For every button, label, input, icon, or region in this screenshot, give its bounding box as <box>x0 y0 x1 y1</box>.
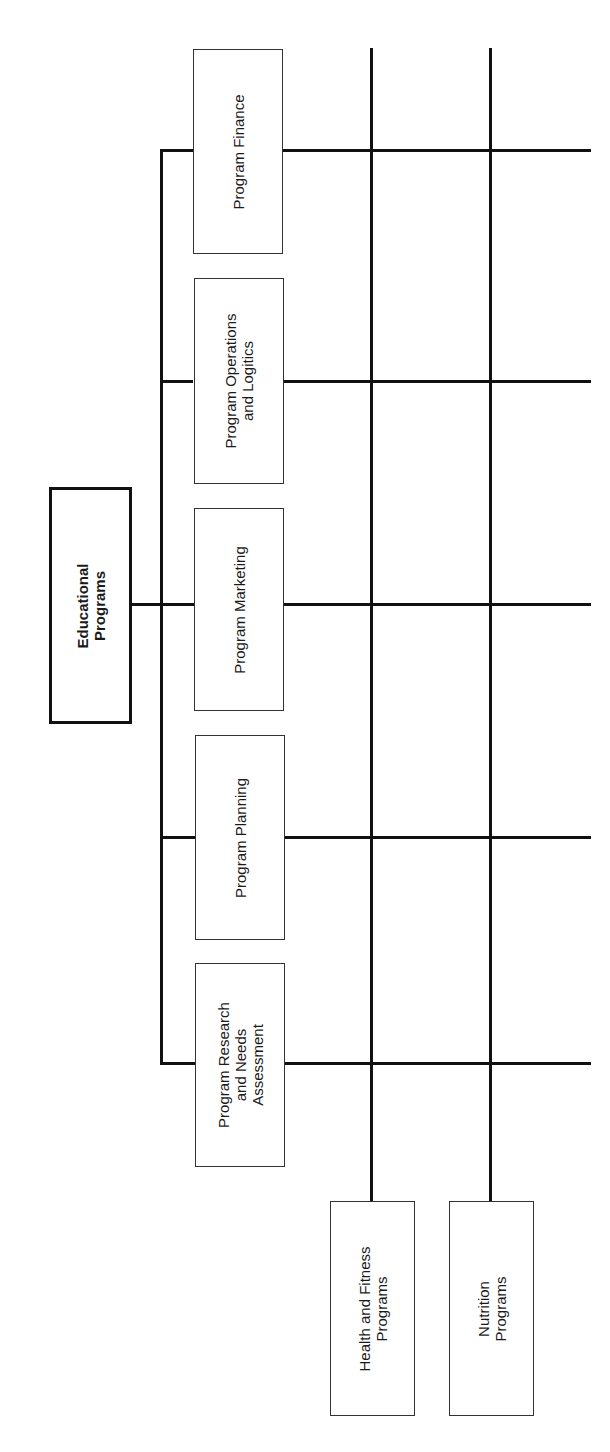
box-program-planning: Program Planning <box>195 735 285 940</box>
box-program-marketing: Program Marketing <box>194 508 284 711</box>
research-row-line <box>284 1062 591 1065</box>
box-program-operations: Program Operations and Logitics <box>194 278 284 484</box>
marketing-row-line <box>284 603 591 606</box>
planning-stub-line <box>160 836 195 839</box>
health-column-line <box>370 48 373 1202</box>
nutrition-column-line <box>489 48 492 1202</box>
marketing-label: Program Marketing <box>231 546 248 674</box>
planning-label: Program Planning <box>232 777 249 897</box>
org-chart-diagram: Educational Programs Program Finance Pro… <box>0 0 610 1452</box>
box-health-fitness-programs: Health and Fitness Programs <box>330 1201 415 1416</box>
root-connector-line <box>131 603 162 606</box>
nutrition-label: Nutrition Programs <box>475 1276 509 1341</box>
operations-label: Program Operations and Logitics <box>222 313 256 448</box>
finance-stub-line <box>160 149 193 152</box>
research-stub-line <box>160 1062 195 1065</box>
planning-row-line <box>284 836 591 839</box>
marketing-stub-line <box>160 603 194 606</box>
finance-label: Program Finance <box>230 94 247 209</box>
box-program-finance: Program Finance <box>193 49 283 254</box>
functional-bracket-line <box>160 149 163 1065</box>
box-program-research: Program Research and Needs Assessment <box>195 963 285 1167</box>
operations-row-line <box>283 380 591 383</box>
health-label: Health and Fitness Programs <box>356 1246 390 1371</box>
operations-stub-line <box>160 380 193 383</box>
box-nutrition-programs: Nutrition Programs <box>449 1201 534 1416</box>
root-label: Educational Programs <box>74 563 108 648</box>
research-label: Program Research and Needs Assessment <box>215 1002 266 1128</box>
finance-row-line <box>282 149 591 152</box>
root-box-educational-programs: Educational Programs <box>49 487 132 724</box>
